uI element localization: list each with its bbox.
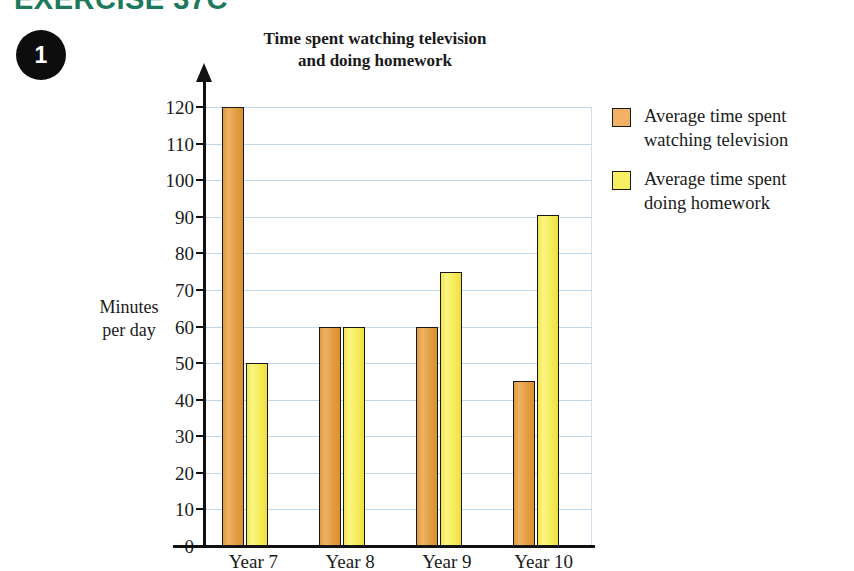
bar	[513, 381, 535, 546]
gridline	[205, 253, 592, 254]
gridline	[205, 327, 592, 328]
y-axis-tick-label: 90	[175, 207, 194, 226]
y-axis-line	[203, 78, 206, 548]
y-axis-tick-label: 120	[166, 98, 195, 117]
bar	[343, 327, 365, 547]
bar	[319, 327, 341, 547]
legend-swatch-tv	[612, 108, 631, 127]
y-axis-tick-label: 80	[175, 244, 194, 263]
legend-label-line-1: Average time spent	[644, 104, 788, 128]
y-axis-tick-label: 30	[175, 427, 194, 446]
y-axis-tick-label: 10	[175, 500, 194, 519]
bar	[246, 363, 268, 546]
y-axis-tick-labels: 0102030405060708090100110120	[118, 0, 194, 571]
gridline	[205, 144, 592, 145]
gridline	[205, 107, 592, 108]
y-axis-tick-label: 110	[166, 134, 194, 153]
chart-title-line-1: Time spent watching television	[210, 28, 540, 50]
legend-label: Average time spentwatching television	[644, 104, 788, 153]
question-number-badge: 1	[16, 30, 66, 80]
y-axis-tick-label: 100	[166, 171, 195, 190]
legend-item: Average time spentdoing homework	[612, 167, 788, 216]
legend-swatch-hw	[612, 171, 631, 190]
chart-legend: Average time spentwatching televisionAve…	[612, 104, 788, 230]
y-axis-tick-label: 70	[175, 280, 194, 299]
gridline	[205, 290, 592, 291]
bar	[440, 272, 462, 546]
chart-title: Time spent watching television and doing…	[210, 28, 540, 72]
legend-label-line-2: doing homework	[644, 191, 786, 215]
y-axis-tick-label: 60	[175, 317, 194, 336]
legend-item: Average time spentwatching television	[612, 104, 788, 153]
gridline	[205, 217, 592, 218]
bar	[416, 327, 438, 547]
gridline	[205, 180, 592, 181]
legend-label-line-2: watching television	[644, 128, 788, 152]
bar	[222, 107, 244, 546]
y-axis-tick-label: 20	[175, 463, 194, 482]
x-axis-category-label: Year 10	[484, 551, 604, 571]
y-axis-tick-label: 50	[175, 354, 194, 373]
y-axis-arrow-icon	[196, 63, 212, 82]
legend-label: Average time spentdoing homework	[644, 167, 786, 216]
chart-title-line-2: and doing homework	[210, 50, 540, 72]
question-number-label: 1	[35, 42, 48, 69]
bar	[537, 215, 559, 546]
y-axis-tick-label: 40	[175, 390, 194, 409]
legend-label-line-1: Average time spent	[644, 167, 786, 191]
